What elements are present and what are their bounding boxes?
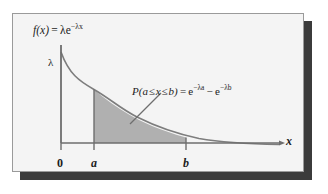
probability-exponent-2: −λb <box>220 83 232 92</box>
x-axis-arrowhead <box>279 141 285 146</box>
pdf-formula-label: f(x) = λe−λx <box>33 25 83 37</box>
x-tick-label-b: b <box>183 157 189 169</box>
figure-root: f(x) = λe−λx λ P(a ≤ x ≤ b) = e−λa − e−λ… <box>0 0 328 194</box>
pdf-formula-fx: f(x) <box>33 24 49 36</box>
probability-formula-label: P(a ≤ x ≤ b) = e−λa − e−λb <box>132 86 232 97</box>
x-tick-label-zero: 0 <box>57 157 63 169</box>
probability-exponent-1: −λa <box>193 83 204 92</box>
x-axis-title: x <box>286 135 292 147</box>
figure-panel: f(x) = λe−λx λ P(a ≤ x ≤ b) = e−λa − e−λ… <box>12 13 304 172</box>
probability-p-open: P( <box>132 85 142 97</box>
pdf-formula-exponent: −λx <box>71 22 83 31</box>
y-axis-lambda-label: λ <box>48 57 53 68</box>
x-tick-label-a: a <box>91 157 97 169</box>
annotation-leader-line <box>130 93 161 124</box>
